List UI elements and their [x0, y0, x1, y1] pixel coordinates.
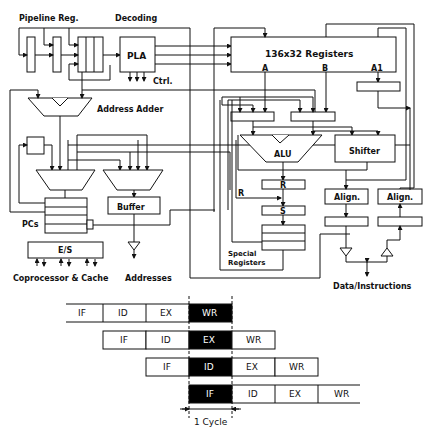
incrementer-box [27, 137, 44, 154]
row3-stage-if: IF [163, 362, 171, 372]
ctrl-label: Ctrl. [153, 77, 172, 86]
data-driver-out [340, 248, 352, 256]
data-driver-in [381, 248, 393, 256]
row2-stage-if: IF [120, 335, 128, 345]
port-a1-label: A1 [371, 64, 383, 73]
row3-stage-ex: EX [246, 362, 258, 372]
address-driver [128, 242, 140, 250]
row3-stage-wr: WR [289, 362, 304, 372]
address-adder-label: Address Adder [97, 105, 163, 114]
decoding-label: Decoding [115, 14, 157, 23]
pipeline-register-2 [53, 37, 61, 72]
row4-stage-wr: WR [334, 389, 349, 399]
address-mux [103, 170, 163, 190]
align-left-label: Align. [334, 193, 360, 202]
a1-latch [357, 82, 400, 91]
special-registers-label-1: Special [228, 250, 256, 258]
row1-stage-id: ID [118, 308, 128, 318]
row2-stage-id: ID [161, 335, 171, 345]
addresses-label: Addresses [125, 274, 172, 283]
buffer-label: Buffer [117, 203, 145, 212]
operand-latch-b [291, 112, 335, 121]
row2-stage-ex: EX [203, 335, 215, 345]
row3-stage-id: ID [204, 362, 214, 372]
alu-label: ALU [274, 150, 292, 159]
row4-stage-ex: EX [289, 389, 301, 399]
special-registers [262, 225, 305, 250]
processor-architecture-diagram: Pipeline Reg. Decoding PLA Ctrl. Address… [0, 0, 431, 436]
align-latch-left [325, 217, 368, 226]
port-a-label: A [262, 64, 269, 73]
row4-stage-if: IF [206, 389, 214, 399]
r-register-label: R [280, 181, 286, 190]
pc-mux [36, 170, 95, 190]
coprocessor-cache-label: Coprocessor & Cache [13, 274, 109, 283]
data-instructions-label: Data/Instructions [333, 282, 412, 291]
pcs-label: PCs [22, 220, 39, 229]
special-registers-label-2: Registers [228, 259, 265, 267]
row1-stage-ex: EX [160, 308, 172, 318]
s-register-label: S [280, 207, 286, 216]
pipeline-register-3 [78, 37, 103, 72]
align-right-label: Align. [387, 193, 413, 202]
registers-label: 136x32 Registers [265, 49, 353, 59]
shifter-label: Shifter [349, 147, 380, 156]
align-latch-right [378, 217, 422, 226]
row2-stage-wr: WR [246, 335, 261, 345]
cycle-label: 1 Cycle [194, 417, 228, 427]
port-b-label: B [322, 64, 328, 73]
operand-latch-a [231, 112, 274, 121]
row1-stage-wr: WR [202, 308, 217, 318]
es-label: E/S [58, 246, 72, 255]
row4-stage-id: ID [248, 389, 258, 399]
pipeline-reg-label: Pipeline Reg. [19, 14, 79, 23]
r-input-label: R [238, 189, 244, 198]
pla-label: PLA [127, 51, 146, 61]
pipeline-timing-chart: IF ID EX WR IF ID EX WR IF ID EX WR IF I… [66, 296, 360, 427]
row1-stage-if: IF [78, 308, 86, 318]
pipeline-register-1 [27, 37, 35, 72]
